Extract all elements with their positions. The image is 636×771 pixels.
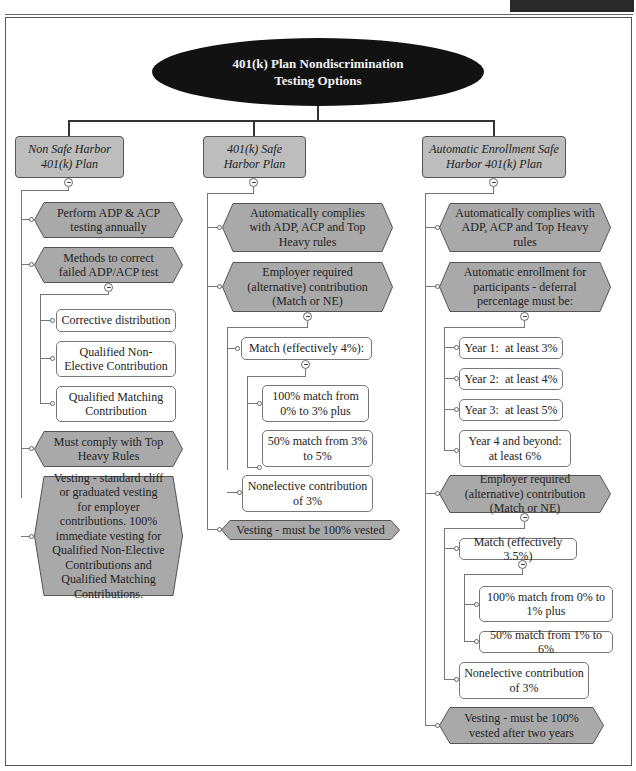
sub-sub-spine (464, 574, 465, 642)
node-text: Automatically complies with ADP, ACP and… (455, 206, 595, 250)
page-header-tab (510, 0, 634, 12)
connector-dot-icon (50, 318, 55, 323)
node-vesting-safe-harbor: Vesting - must be 100% vested (221, 520, 400, 540)
connector-dot-icon (50, 401, 55, 406)
node-perform-adp-acp: Perform ADP & ACP testing annually (34, 202, 183, 238)
connector-dot-icon (257, 465, 262, 470)
node-methods-to-correct: Methods to correct failed ADP/ACP test (34, 247, 183, 283)
node-50-match-3-5: 50% match from 3% to 5% (262, 430, 373, 467)
sub-spine-stub (108, 292, 109, 295)
node-text: Year 3: at least 5% (464, 403, 557, 418)
node-text: Vesting - standard cliff or graduated ve… (52, 471, 165, 602)
node-100-match-0-1: 100% match from 0% to 1% plus (479, 586, 613, 622)
connector-dot-icon (50, 356, 55, 361)
node-auto-complies-auto-enroll: Automatically complies with ADP, ACP and… (439, 203, 611, 252)
node-auto-complies-safe-harbor: Automatically complies with ADP, ACP and… (222, 203, 393, 252)
col1-spine-top (21, 190, 69, 191)
node-text: 50% match from 3% to 5% (267, 434, 368, 463)
header-line-2: 401(k) Plan (28, 157, 111, 172)
node-year-4-beyond: Year 4 and beyond: at least 6% (459, 430, 571, 467)
node-100-match-0-3: 100% match from 0% to 3% plus (262, 385, 369, 422)
collapse-toggle-icon[interactable] (518, 560, 527, 569)
sub-spine-top (444, 528, 525, 529)
col3-spine-top (425, 193, 494, 194)
sub-sub-spine-top (464, 574, 523, 575)
node-top-heavy: Must comply with Top Heavy Rules (34, 431, 183, 467)
node-text: Year 4 and beyond: at least 6% (464, 434, 566, 463)
connector-col1 (68, 120, 70, 137)
root-branch-bar (68, 120, 495, 122)
sub-sub-spine (247, 376, 248, 468)
node-text: 100% match from 0% to 1% plus (484, 590, 608, 619)
column-header-safe-harbor: 401(k) SafeHarbor Plan (203, 136, 306, 178)
col1-spine (21, 190, 22, 498)
node-text: Vesting - must be 100% vested after two … (455, 711, 588, 740)
node-text: Match (effectively 4%): (249, 341, 364, 356)
column-header-auto-enrollment: Automatic Enrollment SafeHarbor 401(k) P… (422, 136, 566, 178)
collapse-toggle-icon[interactable] (303, 312, 312, 321)
node-corrective-distribution: Corrective distribution (56, 309, 176, 332)
node-year-2: Year 2: at least 4% (459, 368, 563, 390)
col1-spine-stub (68, 187, 69, 191)
node-text: Qualified Non-Elective Contribution (61, 345, 171, 374)
node-text: 50% match from 1% to 6% (484, 628, 608, 657)
sub-spine (40, 294, 41, 404)
node-text: Automatic enrollment for participants - … (455, 265, 595, 309)
node-automatic-enrollment: Automatic enrollment for participants - … (439, 262, 611, 312)
node-vesting-non-safe-harbor: Vesting - standard cliff or graduated ve… (34, 476, 183, 596)
node-text: Qualified Matching Contribution (61, 390, 171, 419)
node-text: Vesting - must be 100% vested (236, 523, 384, 538)
header-line-1: 401(k) Safe (224, 142, 286, 157)
sub-spine-stub (524, 522, 525, 529)
col3-spine-stub (493, 187, 494, 194)
collapse-toggle-icon[interactable] (520, 312, 529, 321)
root-title-line-2: Testing Options (232, 72, 403, 89)
node-nonelective-3-safe-harbor: Nonelective contribution of 3% (242, 475, 373, 512)
node-text: Corrective distribution (62, 313, 171, 328)
col3-spine (425, 193, 426, 726)
root-connector (317, 106, 319, 121)
collapse-toggle-icon[interactable] (249, 178, 258, 187)
node-qualified-matching: Qualified Matching Contribution (56, 386, 176, 422)
header-line-2: Harbor 401(k) Plan (429, 157, 559, 172)
node-text: Employer required (alternative) contribu… (455, 472, 595, 516)
collapse-toggle-icon[interactable] (104, 283, 113, 292)
collapse-toggle-icon[interactable] (301, 360, 310, 369)
node-text: Methods to correct failed ADP/ACP test (50, 251, 167, 280)
sub-spine (444, 528, 445, 679)
sub-spine-top (227, 327, 308, 328)
col2-spine-stub (253, 187, 254, 194)
col2-spine-top (207, 193, 254, 194)
sub-spine-top (40, 294, 109, 295)
node-qualified-non-elective: Qualified Non-Elective Contribution (56, 341, 176, 377)
sub-spine (444, 327, 445, 451)
sub-sub-spine-top (247, 376, 306, 377)
collapse-toggle-icon[interactable] (64, 178, 73, 187)
node-year-1: Year 1: at least 3% (459, 337, 563, 359)
connector-col3 (493, 120, 495, 137)
connector-dot-icon (235, 346, 240, 351)
node-text: Perform ADP & ACP testing annually (50, 206, 167, 235)
header-line-2: Harbor Plan (224, 157, 286, 172)
col2-spine (207, 193, 208, 529)
sub-sub-spine-stub (305, 369, 306, 377)
node-employer-required-auto-enroll: Employer required (alternative) contribu… (439, 475, 611, 513)
node-match-effectively-3-5: Match (effectively 3.5%) (459, 538, 577, 560)
header-line-1: Automatic Enrollment Safe (429, 142, 559, 157)
connector-col2 (253, 120, 255, 137)
node-vesting-auto-enroll: Vesting - must be 100% vested after two … (439, 707, 604, 744)
node-text: Automatically complies with ADP, ACP and… (238, 206, 377, 250)
sub-spine-stub (307, 321, 308, 328)
node-text: Match (effectively 3.5%) (464, 535, 572, 564)
node-text: Nonelective contribution of 3% (247, 479, 368, 508)
sub-spine-top (444, 327, 525, 328)
node-text: 100% match from 0% to 3% plus (267, 389, 364, 418)
node-text: Year 2: at least 4% (464, 372, 557, 387)
node-year-3: Year 3: at least 5% (459, 399, 563, 421)
collapse-toggle-icon[interactable] (489, 178, 498, 187)
root-node: 401(k) Plan Nondiscrimination Testing Op… (152, 38, 484, 106)
column-header-non-safe-harbor: Non Safe Harbor401(k) Plan (15, 136, 124, 178)
node-nonelective-3-auto-enroll: Nonelective contribution of 3% (459, 662, 589, 699)
node-50-match-1-6: 50% match from 1% to 6% (479, 631, 613, 653)
node-employer-required-safe-harbor: Employer required (alternative) contribu… (222, 262, 393, 312)
